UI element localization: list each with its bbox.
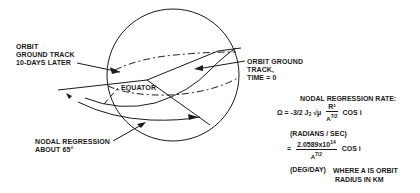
formula-title: NODAL REGRESSION RATE: <box>300 95 396 102</box>
label-equator: EQUATOR <box>121 84 156 92</box>
constant: 2.0589x10 <box>297 141 330 148</box>
orbit-later-upper-arc <box>115 52 236 70</box>
den-exp: 7/2 <box>315 151 322 157</box>
units-radians: (RADIANS / SEC) <box>290 130 347 137</box>
constant-exp: 14 <box>330 139 336 145</box>
fraction-constant-a: 2.0589x1014 A7/2 <box>296 138 337 161</box>
label-line: NODAL REGRESSION <box>35 138 110 146</box>
label-line: 10-DAYS LATER <box>16 59 75 67</box>
label-line: ABOUT 65° <box>35 146 110 154</box>
frac-denominator: A7/2 <box>296 150 337 161</box>
frac-numerator: R² <box>326 103 337 112</box>
arrowhead-left <box>66 93 72 99</box>
label-line: ORBIT GROUND <box>247 58 303 66</box>
units-text: (RADIANS / SEC) <box>290 130 347 137</box>
formula-line2: = 2.0589x1014 A7/2 COS i <box>287 138 361 161</box>
frac-denominator: A7/2 <box>326 112 337 123</box>
cos-i: COS i <box>343 109 362 116</box>
sqrt-mu: √μ <box>313 109 321 116</box>
equator-text: EQUATOR <box>121 84 156 91</box>
label-line: GROUND TRACK <box>16 51 75 59</box>
label-orbit-later: ORBIT GROUND TRACK 10-DAYS LATER <box>16 43 75 67</box>
label-line: TRACK, <box>247 66 303 74</box>
leader-nodal-regression <box>113 124 143 141</box>
note-line: WHERE A IS ORBIT <box>333 166 398 175</box>
fraction-r2-a: R² A7/2 <box>326 103 337 123</box>
formula-title-text: NODAL REGRESSION RATE: <box>300 95 396 102</box>
units-text: (DEG/DAY) <box>290 166 326 173</box>
note-line: RADIUS IN KM <box>333 175 398 184</box>
frac-numerator: 2.0589x1014 <box>296 138 337 150</box>
units-degday: (DEG/DAY) <box>290 166 326 173</box>
earth-sphere <box>107 9 239 141</box>
label-nodal-regression: NODAL REGRESSION ABOUT 65° <box>35 138 110 154</box>
omega-expr: Ω = -3/2 J <box>277 109 309 116</box>
j-subscript: 2 <box>309 111 312 117</box>
formula-line1: Ω = -3/2 J2 √μ R² A7/2 COS i <box>277 103 362 123</box>
equals-sign: = <box>287 145 291 152</box>
label-line: ORBIT <box>16 43 75 51</box>
label-line: TIME = 0 <box>247 74 303 82</box>
den-exp: 7/2 <box>331 113 338 119</box>
orbit-back-segment <box>104 88 118 104</box>
cos-i: COS i <box>342 145 361 152</box>
radius-note: WHERE A IS ORBIT RADIUS IN KM <box>333 166 398 184</box>
arrowhead-orbit-time0 <box>194 65 203 71</box>
label-orbit-time0: ORBIT GROUND TRACK, TIME = 0 <box>247 58 303 82</box>
